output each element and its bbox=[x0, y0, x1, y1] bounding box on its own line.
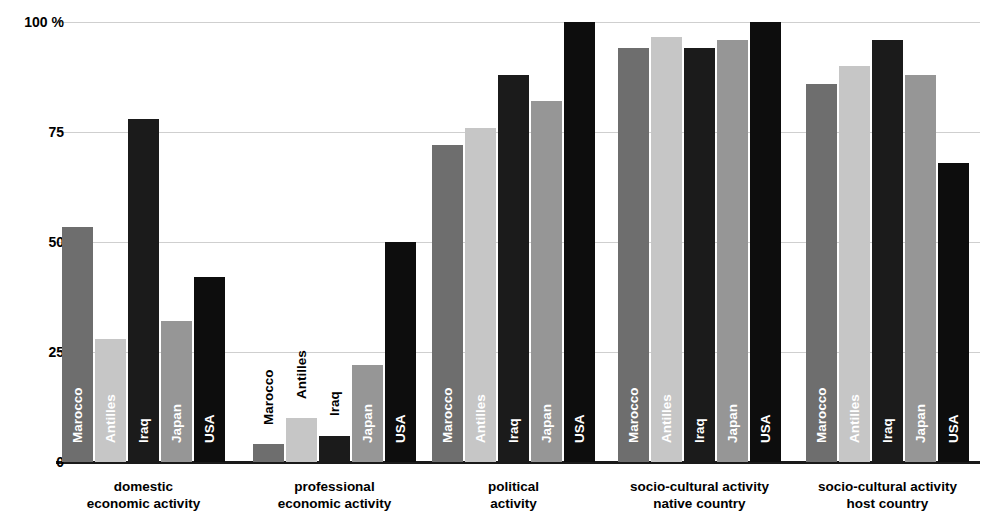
bar[interactable]: Iraq bbox=[684, 48, 715, 462]
bar[interactable]: Marocco bbox=[618, 48, 649, 462]
bar-group: MaroccoAntillesIraqJapanUSA bbox=[62, 22, 225, 462]
category-label-line: economic activity bbox=[40, 496, 247, 513]
bar[interactable]: Iraq bbox=[319, 436, 350, 462]
bar[interactable]: Iraq bbox=[872, 40, 903, 462]
bar-series-label: Iraq bbox=[507, 418, 521, 443]
bar-series-label: Japan bbox=[361, 403, 375, 442]
bar[interactable]: Antilles bbox=[465, 128, 496, 462]
bar-series-label: Iraq bbox=[881, 418, 895, 443]
bar[interactable]: USA bbox=[194, 277, 225, 462]
bar[interactable]: USA bbox=[564, 22, 595, 462]
bar[interactable]: Japan bbox=[531, 101, 562, 462]
bar-series-label: Japan bbox=[170, 403, 184, 442]
category-label-line: political bbox=[410, 479, 617, 496]
bar-chart: 0255075100 %MaroccoAntillesIraqJapanUSAd… bbox=[0, 0, 982, 517]
bar-series-label: Marocco bbox=[627, 387, 641, 443]
bar-series-label: Iraq bbox=[137, 418, 151, 443]
category-label-line: domestic bbox=[40, 479, 247, 496]
bar-series-label: USA bbox=[203, 414, 217, 443]
category-label-line: economic activity bbox=[231, 496, 438, 513]
category-label: domesticeconomic activity bbox=[40, 479, 247, 513]
bar-series-label: USA bbox=[759, 414, 773, 443]
bar-series-label: USA bbox=[394, 414, 408, 443]
category-label: socio-cultural activityhost country bbox=[784, 479, 982, 513]
bar[interactable]: Japan bbox=[717, 40, 748, 462]
bar-series-label: Antilles bbox=[104, 394, 118, 443]
category-label: professionaleconomic activity bbox=[231, 479, 438, 513]
category-label-line: activity bbox=[410, 496, 617, 513]
category-label-line: socio-cultural activity bbox=[596, 479, 803, 496]
category-label-line: host country bbox=[784, 496, 982, 513]
bar[interactable]: Iraq bbox=[498, 75, 529, 462]
y-axis-tick-100: 100 % bbox=[24, 14, 64, 30]
category-label-line: socio-cultural activity bbox=[784, 479, 982, 496]
bar[interactable]: USA bbox=[938, 163, 969, 462]
bar-series-label: USA bbox=[573, 414, 587, 443]
bar-series-label: Antilles bbox=[295, 350, 309, 399]
bar[interactable]: USA bbox=[750, 22, 781, 462]
bar-series-label: Antilles bbox=[474, 394, 488, 443]
bar-series-label: Marocco bbox=[262, 369, 276, 425]
bar-group: MaroccoAntillesIraqJapanUSA bbox=[806, 22, 969, 462]
bar-group: MaroccoAntillesIraqJapanUSA bbox=[618, 22, 781, 462]
bar[interactable]: Japan bbox=[352, 365, 383, 462]
bar-group: MaroccoAntillesIraqJapanUSA bbox=[253, 22, 416, 462]
bar[interactable]: Antilles bbox=[286, 418, 317, 462]
bar-series-label: Antilles bbox=[660, 394, 674, 443]
bar-series-label: Marocco bbox=[441, 387, 455, 443]
bar-series-label: Marocco bbox=[815, 387, 829, 443]
bar-series-label: Japan bbox=[914, 403, 928, 442]
bar[interactable]: Antilles bbox=[651, 37, 682, 462]
bar[interactable]: Antilles bbox=[839, 66, 870, 462]
bar[interactable]: Marocco bbox=[432, 145, 463, 462]
bar[interactable]: Japan bbox=[905, 75, 936, 462]
bar[interactable]: Marocco bbox=[253, 444, 284, 462]
bar[interactable]: Japan bbox=[161, 321, 192, 462]
category-label: socio-cultural activitynative country bbox=[596, 479, 803, 513]
bar-series-label: Japan bbox=[540, 403, 554, 442]
bar[interactable]: Iraq bbox=[128, 119, 159, 462]
bar-group: MaroccoAntillesIraqJapanUSA bbox=[432, 22, 595, 462]
bar-series-label: Iraq bbox=[328, 391, 342, 416]
bar[interactable]: Marocco bbox=[62, 227, 93, 462]
category-label: politicalactivity bbox=[410, 479, 617, 513]
bar[interactable]: Antilles bbox=[95, 339, 126, 462]
category-label-line: native country bbox=[596, 496, 803, 513]
plot-area: 0255075100 %MaroccoAntillesIraqJapanUSAd… bbox=[0, 0, 982, 517]
bar[interactable]: Marocco bbox=[806, 84, 837, 462]
category-label-line: professional bbox=[231, 479, 438, 496]
bar-series-label: Iraq bbox=[693, 418, 707, 443]
bar[interactable]: USA bbox=[385, 242, 416, 462]
bar-series-label: USA bbox=[947, 414, 961, 443]
bar-series-label: Japan bbox=[726, 403, 740, 442]
bar-series-label: Antilles bbox=[848, 394, 862, 443]
bar-series-label: Marocco bbox=[71, 387, 85, 443]
